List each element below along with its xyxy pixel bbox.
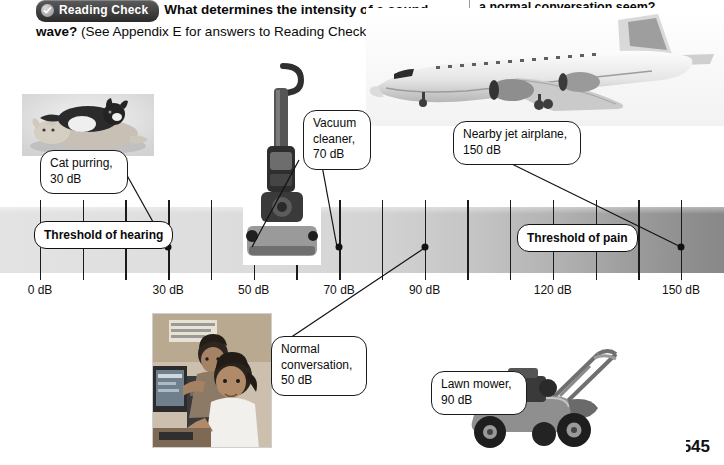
axis-label: 90 dB: [409, 283, 440, 297]
scale-marker-dot: [421, 244, 428, 251]
students-computer-photo: [152, 313, 272, 448]
jet-airplane-photo: [366, 8, 724, 126]
tick-mark: [681, 200, 682, 280]
axis-label: 150 dB: [662, 283, 700, 297]
axis-label: 30 dB: [153, 283, 184, 297]
axis-label: 120 dB: [534, 283, 572, 297]
tick-mark: [510, 200, 511, 280]
textbook-page: Reading Check What determines the intens…: [0, 0, 724, 465]
tick-mark: [382, 200, 383, 280]
scale-marker-dot: [336, 244, 343, 251]
tick-mark: [638, 200, 639, 280]
threshold-of-pain-label: Threshold of pain: [517, 224, 638, 252]
cats-photo: [22, 94, 154, 156]
axis-label: 0 dB: [28, 283, 53, 297]
axis-label: 50 dB: [238, 283, 269, 297]
callout-cat-purring: Cat purring, 30 dB: [40, 150, 128, 194]
check-circle-icon: [41, 4, 54, 17]
callout-lawn-mower: Lawn mower, 90 dB: [431, 371, 527, 415]
callout-vacuum-cleaner: Vacuum cleaner, 70 dB: [303, 110, 371, 170]
threshold-of-hearing-label: Threshold of hearing: [34, 221, 173, 249]
reading-check-badge: Reading Check: [36, 0, 159, 22]
callout-normal-conversation: Normal conversation, 50 dB: [271, 336, 367, 396]
axis-label: 70 dB: [323, 283, 354, 297]
tick-mark: [467, 200, 468, 280]
tick-mark: [211, 200, 212, 280]
scale-marker-dot: [678, 244, 685, 251]
reading-check-label: Reading Check: [59, 1, 148, 20]
callout-jet-airplane: Nearby jet airplane, 150 dB: [453, 121, 581, 165]
tick-mark: [425, 200, 426, 280]
tick-mark: [339, 200, 340, 280]
reading-check-note: (See Appendix E for answers to Reading C…: [81, 24, 381, 39]
